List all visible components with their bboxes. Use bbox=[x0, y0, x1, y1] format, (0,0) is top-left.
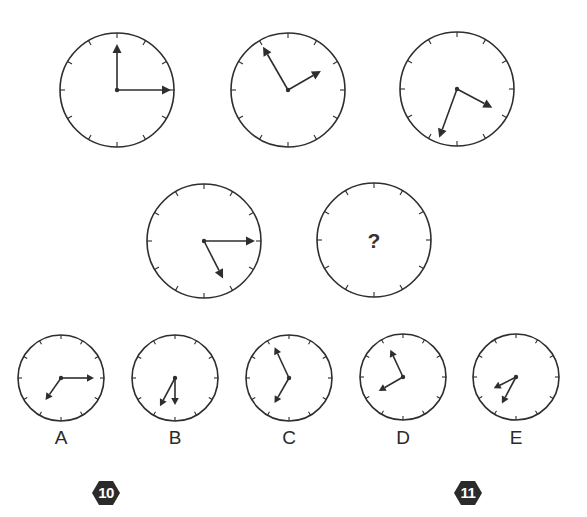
option-label-d[interactable]: D bbox=[383, 428, 423, 447]
center-pin bbox=[286, 88, 290, 92]
clock-4 bbox=[147, 184, 261, 298]
clock-puzzle: ? A B C D E 10 11 bbox=[0, 0, 587, 517]
option-clock-e[interactable] bbox=[473, 334, 559, 420]
center-pin bbox=[59, 376, 63, 380]
page-badge-10: 10 bbox=[91, 480, 121, 506]
option-label-e[interactable]: E bbox=[496, 428, 536, 447]
option-clock-b[interactable] bbox=[132, 335, 218, 421]
center-pin bbox=[401, 375, 405, 379]
clock-2 bbox=[231, 33, 345, 147]
badge-number: 10 bbox=[91, 480, 121, 506]
center-pin bbox=[514, 375, 518, 379]
center-pin bbox=[115, 88, 119, 92]
clock-3 bbox=[400, 32, 514, 146]
option-label-c[interactable]: C bbox=[269, 428, 309, 447]
option-label-b[interactable]: B bbox=[155, 428, 195, 447]
center-pin bbox=[202, 239, 206, 243]
clock-1 bbox=[60, 33, 174, 147]
page-badge-11: 11 bbox=[453, 480, 483, 506]
option-clock-d[interactable] bbox=[360, 334, 446, 420]
option-label-a[interactable]: A bbox=[41, 428, 81, 447]
option-clock-a[interactable] bbox=[18, 335, 104, 421]
badge-number: 11 bbox=[453, 480, 483, 506]
option-clock-c[interactable] bbox=[246, 335, 332, 421]
center-pin bbox=[173, 376, 177, 380]
center-pin bbox=[287, 376, 291, 380]
center-pin bbox=[455, 87, 459, 91]
question-mark: ? bbox=[354, 230, 394, 251]
